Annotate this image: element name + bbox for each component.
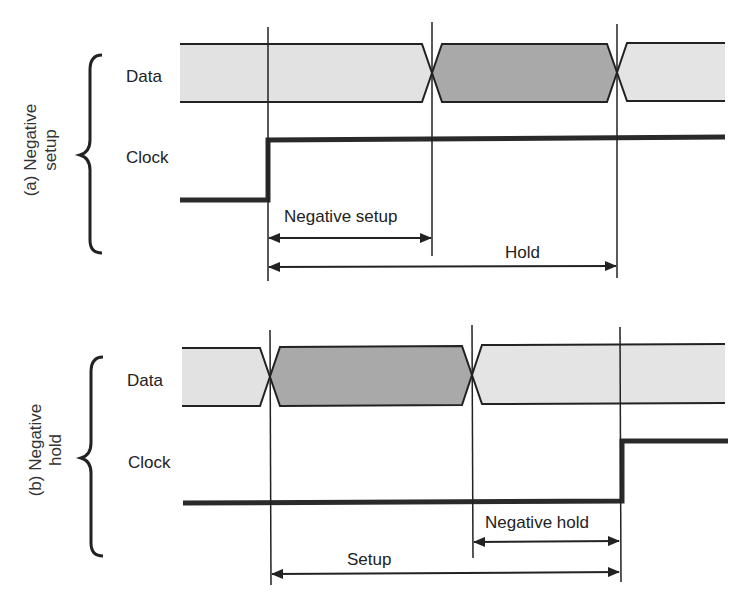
panel-b-side-label: (b) Negative hold — [26, 404, 65, 497]
hold-arrow — [269, 266, 616, 267]
panel-a-negative-setup: (a) Negative setup Data Clock Negative s… — [21, 22, 725, 281]
panel-b-negative-hold: (b) Negative hold Data Clock Negative ho… — [26, 325, 728, 585]
panel-a-data-waveform — [180, 43, 725, 102]
timing-diagram: (a) Negative setup Data Clock Negative s… — [0, 0, 751, 598]
panel-b-transition1-line — [270, 330, 271, 585]
hold-label: Hold — [505, 243, 540, 262]
panel-a-clock-label: Clock — [126, 148, 169, 167]
setup-label: Setup — [347, 550, 391, 569]
panel-b-clock-edge-line — [620, 327, 621, 582]
panel-b-transition2-line — [472, 325, 473, 558]
setup-arrow — [272, 572, 619, 574]
negative-hold-label: Negative hold — [485, 513, 589, 532]
negative-setup-label: Negative setup — [284, 207, 397, 226]
panel-a-title-line2: setup — [41, 129, 60, 171]
panel-a-title-line1: (a) Negative — [21, 104, 40, 197]
panel-b-data-label: Data — [127, 371, 163, 390]
panel-b-clock-label: Clock — [128, 453, 171, 472]
panel-a-brace-icon — [80, 55, 102, 253]
panel-a-clock-waveform — [180, 137, 725, 200]
panel-b-data-waveform — [182, 344, 725, 406]
panel-a-side-label: (a) Negative setup — [21, 104, 60, 197]
negative-hold-arrow — [474, 541, 619, 542]
panel-b-title-line2: hold — [46, 434, 65, 466]
panel-b-title-line1: (b) Negative — [26, 404, 45, 497]
panel-a-data-label: Data — [126, 67, 162, 86]
panel-b-clock-waveform — [183, 441, 728, 503]
panel-b-brace-icon — [81, 357, 103, 556]
